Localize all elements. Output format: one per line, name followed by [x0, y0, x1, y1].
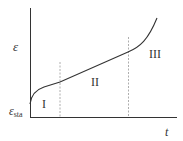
creep-curve-diagram	[0, 0, 183, 141]
stage-label-2: II	[91, 76, 99, 88]
origin-label-sub: sta	[14, 110, 23, 119]
stage-label-3: III	[149, 48, 161, 60]
x-axis-label: t	[165, 126, 168, 138]
stage-label-1: I	[42, 98, 46, 110]
origin-label: εsta	[9, 105, 23, 119]
y-axis-label: ε	[13, 40, 18, 53]
creep-curve	[30, 18, 157, 104]
